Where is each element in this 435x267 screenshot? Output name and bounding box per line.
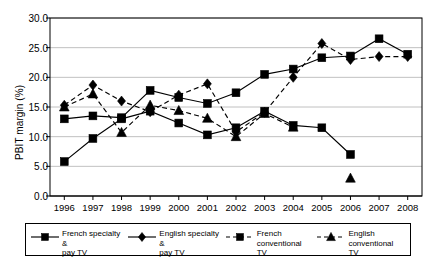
- chart-container: PBIT margin (%) 0.05.010.015.020.025.030…: [0, 0, 435, 267]
- x-tick-label: 2007: [368, 202, 389, 213]
- legend-french-conventional[interactable]: French conventional TV: [225, 224, 317, 255]
- x-tick-label: 1997: [82, 202, 103, 213]
- legend-label: French conventional TV: [257, 229, 317, 258]
- legend-english-conventional[interactable]: English conventional TV: [316, 224, 410, 255]
- legend-label: English specialty & pay TV: [159, 229, 224, 258]
- x-tick-label: 1998: [111, 202, 132, 213]
- x-tick-label: 2002: [225, 202, 246, 213]
- x-tick-label: 2004: [283, 202, 304, 213]
- legend-label: English conventional TV: [348, 229, 410, 258]
- x-tick-label: 2000: [168, 202, 189, 213]
- x-tick-label: 2005: [311, 202, 332, 213]
- legend-label: French specialty & pay TV: [62, 229, 127, 258]
- legend-english-specialty[interactable]: English specialty & pay TV: [127, 224, 224, 255]
- chart-legend: French specialty & pay TVEnglish special…: [25, 223, 411, 256]
- x-tick-label: 2003: [254, 202, 275, 213]
- x-tick-label: 2001: [197, 202, 218, 213]
- x-tick-label: 1999: [140, 202, 161, 213]
- square-marker-icon: [30, 229, 60, 241]
- diamond-marker-icon: [127, 229, 157, 241]
- legend-french-specialty[interactable]: French specialty & pay TV: [30, 224, 127, 255]
- square-marker-icon: [225, 229, 255, 241]
- x-tick-label: 1996: [54, 202, 75, 213]
- triangle-marker-icon: [316, 229, 346, 241]
- x-tick-label: 2006: [340, 202, 361, 213]
- x-tick-label: 2008: [397, 202, 418, 213]
